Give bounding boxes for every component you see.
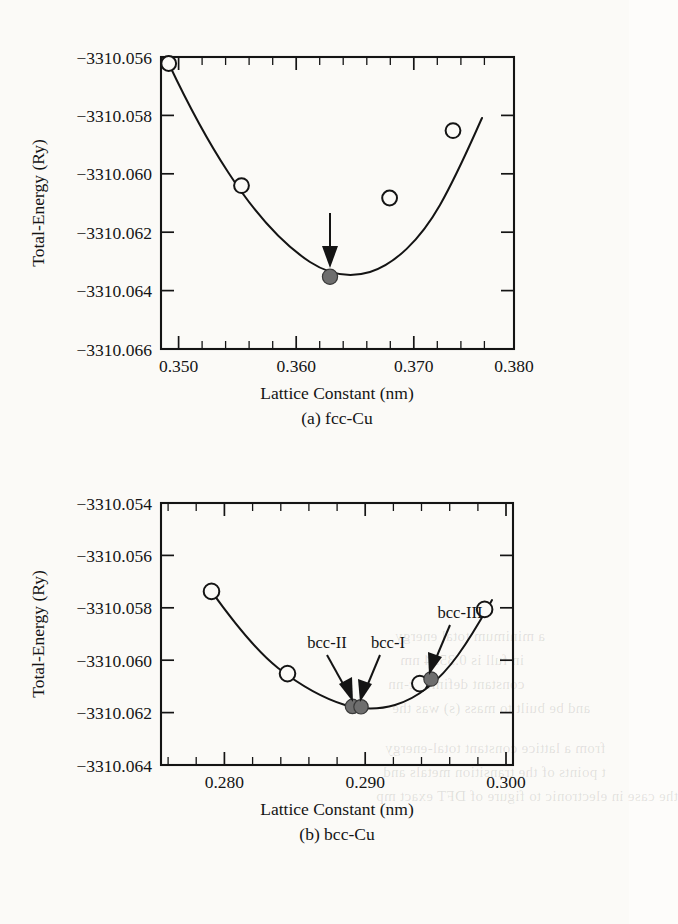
fcc-panel-caption: (a) fcc-Cu xyxy=(301,408,373,428)
bcc-x-tick-labels: 0.280 0.290 0.300 xyxy=(205,772,526,792)
bcc-i-point xyxy=(354,700,368,714)
bcc-x-axis-title: Lattice Constant (nm) xyxy=(260,799,414,819)
fcc-x-tick-labels: 0.350 0.360 0.370 0.380 xyxy=(159,356,534,376)
bcc-ii-label: bcc-II xyxy=(307,633,346,652)
bcc-iii-point xyxy=(424,672,438,686)
fcc-equilibrium-point xyxy=(322,269,337,284)
bcc-ytick-5: −3310.064 xyxy=(77,756,153,776)
bcc-i-arrow xyxy=(358,655,380,702)
fcc-x-ticks xyxy=(179,57,514,349)
fcc-x-axis-title: Lattice Constant (nm) xyxy=(260,383,414,403)
fcc-energy-curve xyxy=(169,64,482,275)
bcc-ytick-2: −3310.058 xyxy=(77,598,153,618)
bcc-xtick-2: 0.300 xyxy=(486,772,526,792)
fcc-ytick-2: −3310.060 xyxy=(77,164,153,184)
bcc-ytick-4: −3310.062 xyxy=(77,703,153,723)
bcc-ii-arrow xyxy=(327,655,353,702)
bcc-ytick-1: −3310.056 xyxy=(77,546,153,566)
bcc-ytick-0: −3310.054 xyxy=(77,494,153,514)
fcc-ytick-4: −3310.064 xyxy=(77,281,153,301)
bcc-panel-caption: (b) bcc-Cu xyxy=(299,824,375,844)
fcc-plot-frame xyxy=(161,57,514,349)
fcc-xtick-3: 0.380 xyxy=(494,356,534,376)
fcc-y-tick-labels: −3310.056 −3310.058 −3310.060 −3310.062 … xyxy=(77,48,153,360)
fcc-equilibrium-arrow xyxy=(322,213,338,268)
fcc-xtick-1: 0.360 xyxy=(277,356,317,376)
fcc-ytick-1: −3310.058 xyxy=(77,106,153,126)
fcc-xtick-2: 0.370 xyxy=(394,356,434,376)
bcc-i-label: bcc-I xyxy=(371,633,405,652)
fcc-data-points xyxy=(161,56,460,205)
fcc-xtick-0: 0.350 xyxy=(159,356,199,376)
bcc-xtick-1: 0.290 xyxy=(346,772,386,792)
bcc-iii-label: bcc-III xyxy=(438,603,483,622)
fcc-ytick-5: −3310.066 xyxy=(77,340,153,360)
panel-fcc-cu: −3310.056 −3310.058 −3310.060 −3310.062 … xyxy=(28,48,534,429)
bcc-ytick-3: −3310.060 xyxy=(77,651,153,671)
panel-bcc-cu: bcc-II bcc-I bcc-III −3310.054 −3310.056… xyxy=(28,494,526,845)
bcc-iii-arrow xyxy=(428,625,450,675)
fcc-ytick-3: −3310.062 xyxy=(77,223,153,243)
bcc-xtick-0: 0.280 xyxy=(205,772,245,792)
fcc-y-axis-title: Total-Energy (Ry) xyxy=(28,139,48,267)
bcc-y-axis-title: Total-Energy (Ry) xyxy=(28,570,48,698)
fcc-ytick-0: −3310.056 xyxy=(77,48,153,68)
bcc-y-tick-labels: −3310.054 −3310.056 −3310.058 −3310.060 … xyxy=(77,494,153,776)
fcc-y-ticks xyxy=(161,57,514,349)
